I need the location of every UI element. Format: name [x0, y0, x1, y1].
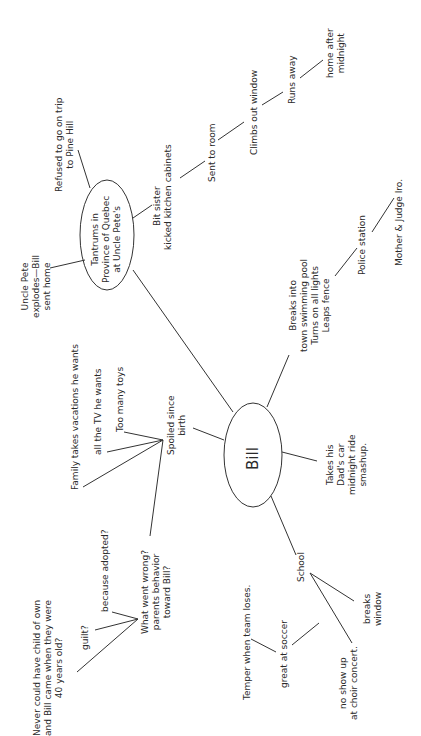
edge-spoiled-toys	[124, 432, 163, 440]
edge-bill-car	[282, 452, 317, 461]
too-many-toys-label: Too many toys	[115, 367, 126, 432]
edge-bill-spoiled	[193, 428, 224, 440]
adopted-label: because adopted?	[100, 529, 111, 612]
climbs-out-label: Climbs out window	[249, 70, 260, 155]
vacations-label: Family takes vacations he wants	[70, 344, 81, 490]
edge-bill-school	[271, 496, 296, 555]
edge-tantrums-refused	[78, 150, 90, 188]
what-went-wrong-label: What went wrong? parents behavior toward…	[140, 550, 173, 634]
runs-away-label: Runs away	[287, 55, 298, 104]
tantrums-line-2: Province of Quebec	[101, 196, 112, 283]
spoiled-label: Spoiled since birth	[166, 396, 188, 455]
edge-pool-police	[335, 248, 357, 276]
uncle-pete-label: Uncle Pete explodes—Bill sent home	[20, 255, 53, 318]
bit-sister-label: Bit sister kicked kitchen cabinets	[152, 144, 174, 250]
tantrums-line-1: Tantrums in	[90, 196, 101, 283]
edge-spoiled-tv	[107, 440, 163, 452]
breaks-window-label: breaks window	[362, 592, 384, 626]
bill-node-label: Bill	[245, 447, 261, 470]
edge-school-fork	[310, 573, 354, 643]
refused-trip-label: Refused to go on trip to Pine Hill	[54, 97, 76, 192]
edge-bitsister-sentroom	[180, 161, 205, 178]
school-label: School	[296, 552, 307, 582]
edge-climbs-runs	[262, 92, 283, 105]
great-at-soccer-label: great at soccer	[279, 620, 290, 688]
edge-bill-pool	[267, 355, 289, 407]
all-tv-label: all the TV he wants	[93, 369, 104, 455]
police-station-label: Police station	[357, 215, 368, 275]
sent-to-room-label: Sent to room	[207, 123, 218, 182]
tantrums-line-3: at Uncle Pete's	[112, 196, 123, 283]
mother-judge-label: Mother & Judge Iro.	[394, 179, 405, 266]
guilt-label: guilt?	[80, 625, 91, 650]
no-show-label: no show up at choir concert.	[338, 646, 360, 720]
temper-label: Temper when team loses.	[242, 585, 253, 700]
edge-wrong-adopted	[112, 612, 138, 619]
edge-sentroom-climbs	[218, 122, 244, 140]
tantrums-node-label: Tantrums in Province of Quebec at Uncle …	[90, 196, 123, 283]
mind-map: Bill Tantrums in Province of Quebec at U…	[0, 0, 421, 736]
edge-tantrums-unclepete	[50, 260, 85, 268]
pool-label: Breaks into town swimming pool Turns on …	[288, 259, 332, 352]
edge-runs-home	[300, 60, 323, 78]
edge-tantrums-bitsister	[133, 205, 152, 218]
edge-bill-tantrums	[133, 270, 233, 412]
edge-police-mother	[372, 198, 394, 232]
edge-school-soccer	[292, 623, 319, 645]
home-after-midnight-label: home after midnight	[325, 28, 347, 78]
edge-spoiled-wrong	[150, 440, 163, 536]
never-child-label: Never could have child of own and Bill c…	[32, 600, 65, 736]
edge-soccer-temper	[251, 639, 276, 652]
car-label: Takes his Dad's car midnight ride smashu…	[325, 435, 369, 495]
